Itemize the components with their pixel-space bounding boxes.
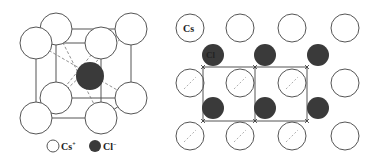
cs-label: Cs — [183, 23, 194, 34]
cs-ion — [115, 13, 147, 45]
cs-ion — [20, 27, 52, 59]
cl-ion — [254, 44, 276, 66]
legend-cs-swatch — [47, 140, 59, 152]
cl-ion — [202, 97, 224, 119]
cs-ion — [331, 122, 359, 150]
legend-cl-swatch — [89, 140, 101, 152]
legend-cl-label: Cl− — [103, 141, 117, 152]
cscl-crystal-diagram: Cs+ Cl− CsCl — [0, 0, 375, 163]
cs-ion — [85, 27, 117, 59]
layer-projection-panel: CsCl — [176, 14, 359, 150]
cs-ion — [331, 69, 359, 97]
cs-ion — [278, 14, 306, 42]
cs-ion — [20, 102, 52, 134]
cl-label: Cl — [206, 50, 215, 60]
cs-ion — [331, 14, 359, 42]
cl-ion — [307, 44, 329, 66]
cs-ion — [226, 14, 254, 42]
cs-ion — [115, 82, 147, 114]
cs-ion — [85, 102, 117, 134]
legend: Cs+ Cl− — [47, 140, 117, 152]
cl-ion — [76, 62, 104, 90]
cl-ion — [254, 97, 276, 119]
unit-cell-panel: Cs+ Cl− — [20, 13, 147, 152]
cl-ion — [307, 97, 329, 119]
legend-cs-label: Cs+ — [61, 141, 76, 152]
